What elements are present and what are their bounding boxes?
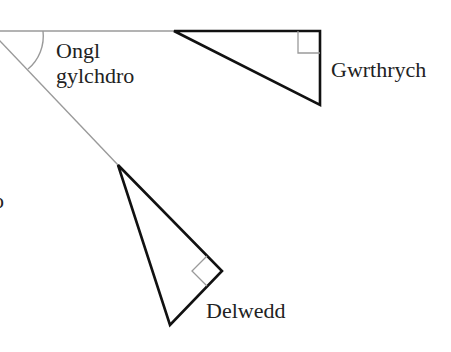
image-right-angle-marker <box>192 256 207 286</box>
left-edge-fragment-label: o <box>0 188 4 213</box>
image-label: Delwedd <box>206 298 285 323</box>
angle-label-line1: Ongl <box>56 38 100 63</box>
object-right-angle-marker <box>298 31 320 53</box>
object-label: Gwrthrych <box>331 57 426 82</box>
rotation-diagram: Ongl gylchdro Gwrthrych Delwedd o <box>0 0 451 352</box>
angle-label-line2: gylchdro <box>56 63 134 88</box>
rotation-angle-arc <box>28 31 43 69</box>
